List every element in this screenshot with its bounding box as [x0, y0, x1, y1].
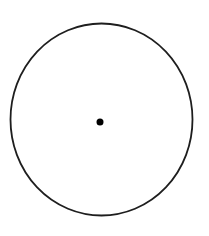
center-point [97, 119, 104, 126]
background [0, 0, 209, 236]
diagram-canvas [0, 0, 209, 236]
